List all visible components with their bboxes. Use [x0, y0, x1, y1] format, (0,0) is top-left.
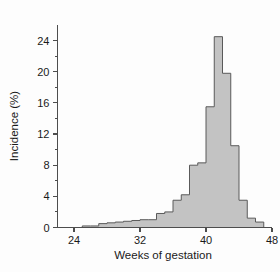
histogram-chart: 04812162024 24324048 Weeks of gestation … — [0, 0, 280, 272]
y-tick-label: 0 — [43, 222, 49, 234]
y-tick-label: 20 — [37, 66, 49, 78]
x-axis-title: Weeks of gestation — [114, 249, 212, 261]
x-tick-label: 40 — [200, 234, 212, 246]
x-tick-label: 32 — [134, 234, 146, 246]
chart-figure: 04812162024 24324048 Weeks of gestation … — [0, 0, 280, 272]
x-tick-label: 48 — [266, 234, 278, 246]
y-tick-label: 8 — [43, 159, 49, 171]
y-axis-title: Incidence (%) — [8, 91, 20, 161]
y-axis-ticks: 04812162024 — [37, 35, 57, 234]
y-tick-label: 12 — [37, 128, 49, 140]
x-axis-ticks: 24324048 — [68, 228, 278, 246]
y-tick-label: 4 — [43, 190, 49, 202]
histogram-bars — [58, 37, 264, 228]
y-tick-label: 24 — [37, 35, 49, 47]
histogram-series — [58, 37, 264, 228]
axes-group — [58, 25, 273, 228]
x-tick-label: 24 — [68, 234, 80, 246]
y-tick-label: 16 — [37, 97, 49, 109]
